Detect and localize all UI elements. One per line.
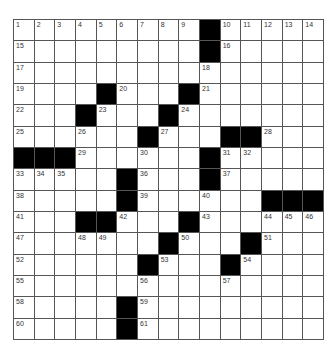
grid-cell[interactable]: 41 bbox=[13, 211, 34, 232]
grid-cell[interactable]: 25 bbox=[13, 126, 34, 147]
grid-cell[interactable] bbox=[54, 211, 75, 232]
grid-cell[interactable] bbox=[282, 104, 303, 125]
grid-cell[interactable] bbox=[302, 83, 323, 104]
grid-cell[interactable]: 12 bbox=[261, 19, 282, 40]
grid-cell[interactable]: 47 bbox=[13, 232, 34, 253]
grid-cell[interactable] bbox=[75, 318, 96, 339]
grid-cell[interactable] bbox=[302, 296, 323, 317]
grid-cell[interactable] bbox=[34, 232, 55, 253]
grid-cell[interactable] bbox=[75, 40, 96, 61]
grid-cell[interactable] bbox=[158, 211, 179, 232]
grid-cell[interactable] bbox=[54, 296, 75, 317]
grid-cell[interactable] bbox=[261, 40, 282, 61]
grid-cell[interactable]: 49 bbox=[96, 232, 117, 253]
grid-cell[interactable]: 36 bbox=[137, 168, 158, 189]
grid-cell[interactable] bbox=[282, 62, 303, 83]
grid-cell[interactable] bbox=[220, 83, 241, 104]
grid-cell[interactable] bbox=[158, 147, 179, 168]
grid-cell[interactable] bbox=[282, 40, 303, 61]
grid-cell[interactable] bbox=[240, 62, 261, 83]
grid-cell[interactable] bbox=[54, 62, 75, 83]
grid-cell[interactable] bbox=[75, 275, 96, 296]
grid-cell[interactable]: 52 bbox=[13, 254, 34, 275]
grid-cell[interactable]: 59 bbox=[137, 296, 158, 317]
grid-cell[interactable] bbox=[178, 296, 199, 317]
grid-cell[interactable] bbox=[302, 147, 323, 168]
grid-cell[interactable]: 3 bbox=[54, 19, 75, 40]
grid-cell[interactable] bbox=[220, 211, 241, 232]
grid-cell[interactable]: 7 bbox=[137, 19, 158, 40]
grid-cell[interactable] bbox=[302, 40, 323, 61]
grid-cell[interactable] bbox=[54, 126, 75, 147]
grid-cell[interactable] bbox=[302, 275, 323, 296]
grid-cell[interactable] bbox=[178, 40, 199, 61]
grid-cell[interactable] bbox=[158, 275, 179, 296]
grid-cell[interactable] bbox=[199, 275, 220, 296]
grid-cell[interactable]: 16 bbox=[220, 40, 241, 61]
grid-cell[interactable] bbox=[96, 296, 117, 317]
grid-cell[interactable] bbox=[199, 104, 220, 125]
grid-cell[interactable] bbox=[34, 275, 55, 296]
grid-cell[interactable] bbox=[34, 296, 55, 317]
grid-cell[interactable] bbox=[282, 147, 303, 168]
grid-cell[interactable] bbox=[302, 254, 323, 275]
grid-cell[interactable] bbox=[137, 232, 158, 253]
grid-cell[interactable] bbox=[54, 232, 75, 253]
grid-cell[interactable] bbox=[282, 168, 303, 189]
grid-cell[interactable]: 14 bbox=[302, 19, 323, 40]
grid-cell[interactable] bbox=[54, 104, 75, 125]
grid-cell[interactable]: 21 bbox=[199, 83, 220, 104]
grid-cell[interactable] bbox=[240, 318, 261, 339]
grid-cell[interactable]: 61 bbox=[137, 318, 158, 339]
grid-cell[interactable] bbox=[116, 104, 137, 125]
grid-cell[interactable] bbox=[116, 40, 137, 61]
grid-cell[interactable] bbox=[261, 318, 282, 339]
grid-cell[interactable]: 20 bbox=[116, 83, 137, 104]
grid-cell[interactable] bbox=[158, 168, 179, 189]
grid-cell[interactable] bbox=[240, 190, 261, 211]
grid-cell[interactable]: 5 bbox=[96, 19, 117, 40]
grid-cell[interactable]: 33 bbox=[13, 168, 34, 189]
grid-cell[interactable] bbox=[178, 275, 199, 296]
grid-cell[interactable] bbox=[282, 232, 303, 253]
grid-cell[interactable] bbox=[96, 62, 117, 83]
grid-cell[interactable] bbox=[137, 104, 158, 125]
grid-cell[interactable] bbox=[34, 40, 55, 61]
grid-cell[interactable]: 22 bbox=[13, 104, 34, 125]
grid-cell[interactable]: 9 bbox=[178, 19, 199, 40]
grid-cell[interactable] bbox=[178, 126, 199, 147]
grid-cell[interactable] bbox=[116, 275, 137, 296]
grid-cell[interactable] bbox=[282, 254, 303, 275]
grid-cell[interactable]: 29 bbox=[75, 147, 96, 168]
grid-cell[interactable] bbox=[261, 254, 282, 275]
grid-cell[interactable]: 24 bbox=[178, 104, 199, 125]
grid-cell[interactable] bbox=[34, 126, 55, 147]
grid-cell[interactable]: 60 bbox=[13, 318, 34, 339]
grid-cell[interactable] bbox=[199, 318, 220, 339]
grid-cell[interactable] bbox=[282, 83, 303, 104]
grid-cell[interactable] bbox=[178, 254, 199, 275]
grid-cell[interactable]: 58 bbox=[13, 296, 34, 317]
grid-cell[interactable]: 45 bbox=[282, 211, 303, 232]
grid-cell[interactable] bbox=[158, 318, 179, 339]
grid-cell[interactable] bbox=[220, 190, 241, 211]
grid-cell[interactable] bbox=[54, 275, 75, 296]
grid-cell[interactable] bbox=[34, 211, 55, 232]
grid-cell[interactable]: 28 bbox=[261, 126, 282, 147]
grid-cell[interactable]: 48 bbox=[75, 232, 96, 253]
grid-cell[interactable] bbox=[199, 126, 220, 147]
grid-cell[interactable] bbox=[240, 168, 261, 189]
grid-cell[interactable] bbox=[96, 318, 117, 339]
grid-cell[interactable] bbox=[240, 275, 261, 296]
grid-cell[interactable]: 53 bbox=[158, 254, 179, 275]
grid-cell[interactable]: 55 bbox=[13, 275, 34, 296]
grid-cell[interactable] bbox=[34, 254, 55, 275]
grid-cell[interactable]: 27 bbox=[158, 126, 179, 147]
grid-cell[interactable] bbox=[302, 168, 323, 189]
grid-cell[interactable] bbox=[178, 147, 199, 168]
grid-cell[interactable] bbox=[96, 168, 117, 189]
grid-cell[interactable] bbox=[34, 318, 55, 339]
grid-cell[interactable] bbox=[178, 190, 199, 211]
grid-cell[interactable]: 13 bbox=[282, 19, 303, 40]
grid-cell[interactable] bbox=[34, 190, 55, 211]
